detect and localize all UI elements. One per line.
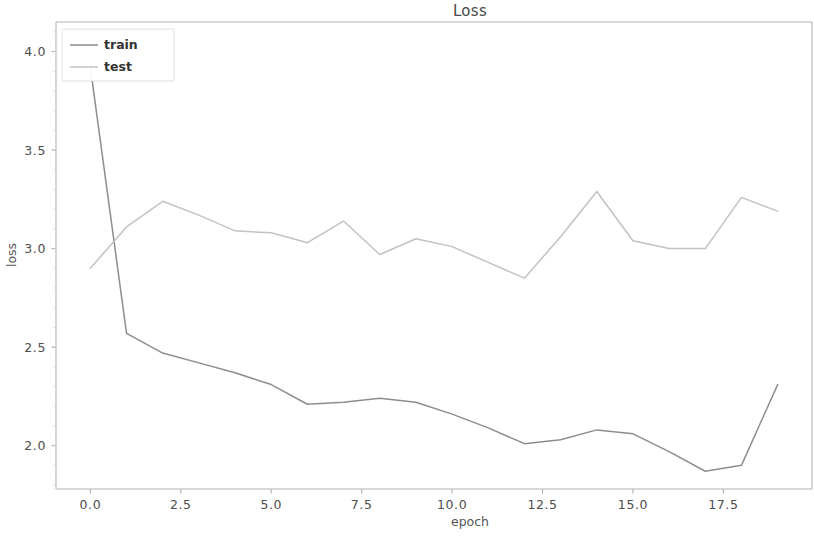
x-tick-label: 12.5 [527,497,557,512]
y-tick-label: 2.5 [24,340,46,355]
x-tick-label: 15.0 [618,497,648,512]
x-tick-label: 10.0 [437,497,467,512]
chart-title: Loss [453,2,487,20]
loss-line-chart: Loss 0.02.55.07.510.012.515.017.5 2.02.5… [0,0,814,537]
x-tick-label: 7.5 [351,497,373,512]
legend-label-train: train [104,37,138,52]
chart-legend[interactable]: train test [62,29,174,81]
legend-label-test: test [104,59,132,74]
y-tick-label: 3.0 [24,241,46,256]
x-tick-label: 2.5 [170,497,192,512]
x-tick-label: 17.5 [708,497,738,512]
y-axis-tick-labels: 2.02.53.03.54.0 [24,44,46,453]
x-tick-label: 5.0 [260,497,282,512]
x-axis-label: epoch [451,514,489,529]
figure-canvas: Loss 0.02.55.07.510.012.515.017.5 2.02.5… [0,0,814,537]
x-tick-label: 0.0 [80,497,102,512]
y-tick-label: 3.5 [24,143,46,158]
x-axis-tick-labels: 0.02.55.07.510.012.515.017.5 [80,497,739,512]
plot-area-background [56,22,812,489]
x-axis-ticks [90,489,723,494]
y-tick-label: 2.0 [24,438,46,453]
y-tick-label: 4.0 [24,44,46,59]
y-axis-label: loss [4,243,19,267]
